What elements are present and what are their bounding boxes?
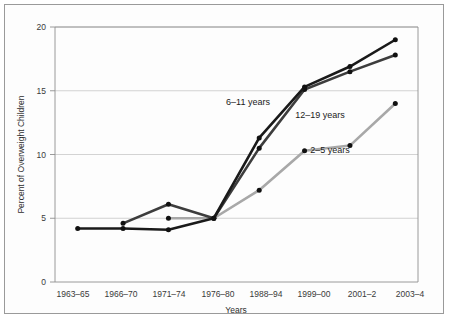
- y-tickmarks: [50, 27, 55, 282]
- data-point: [302, 148, 307, 153]
- y-tick-label-0: 0: [41, 277, 46, 287]
- series-label-12-19-years: 12–19 years: [295, 110, 345, 120]
- data-point: [166, 216, 171, 221]
- x-tick-label-6: 2001–2: [348, 289, 377, 299]
- y-tick-label-20: 20: [37, 22, 47, 32]
- data-point: [257, 188, 262, 193]
- y-tick-label-5: 5: [41, 213, 46, 223]
- x-tick-label-1: 1966–70: [104, 289, 137, 299]
- data-point: [75, 226, 80, 231]
- data-point: [257, 146, 262, 151]
- x-tick-label-3: 1976–80: [201, 289, 234, 299]
- x-tick-label-7: 2003–4: [396, 289, 425, 299]
- data-point: [393, 101, 398, 106]
- data-point: [121, 226, 126, 231]
- data-point: [166, 202, 171, 207]
- x-tick-label-5: 1999–00: [297, 289, 330, 299]
- gridlines: [55, 27, 418, 218]
- data-point: [166, 227, 171, 232]
- data-point: [121, 221, 126, 226]
- line-chart: 20 15 10 5 0 Percent of Overweight Child…: [0, 0, 451, 321]
- series-label-6-11-years: 6–11 years: [226, 97, 270, 107]
- x-tick-label-2: 1971–74: [152, 289, 185, 299]
- series-label-2-5-years: 2–5 years: [310, 145, 350, 155]
- data-point: [393, 37, 398, 42]
- y-tick-labels: 20 15 10 5 0: [37, 22, 47, 287]
- data-point: [257, 135, 262, 140]
- y-axis-title: Percent of Overweight Children: [16, 95, 26, 213]
- data-point: [302, 84, 307, 89]
- x-tick-label-0: 1963–65: [56, 289, 89, 299]
- x-tick-labels: 1963–65 1966–70 1971–74 1976–80 1988–94 …: [56, 289, 424, 299]
- series-line: [78, 40, 396, 230]
- x-tick-label-4: 1988–94: [249, 289, 282, 299]
- y-tick-label-15: 15: [37, 86, 47, 96]
- data-point: [211, 216, 216, 221]
- data-point: [347, 64, 352, 69]
- series-layer: [75, 37, 398, 232]
- data-point: [393, 53, 398, 58]
- data-point: [347, 69, 352, 74]
- chart-canvas: 20 15 10 5 0 Percent of Overweight Child…: [0, 0, 451, 321]
- x-axis-title: Years: [225, 305, 246, 315]
- y-tick-label-10: 10: [37, 150, 47, 160]
